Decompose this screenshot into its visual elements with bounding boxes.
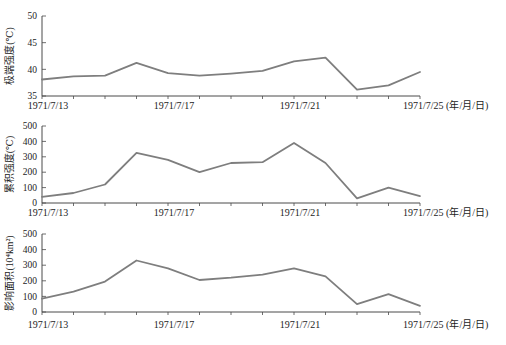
axes [42,234,420,312]
three-panel-line-chart-figure: 354045501971/7/131971/7/171971/7/211971/… [0,0,506,345]
x-tick-labels: 1971/7/131971/7/171971/7/211971/7/25 (年/… [28,99,489,112]
chart-cumulative-intensity: 01002003004005001971/7/131971/7/171971/7… [0,115,506,230]
y-ticks [42,16,46,96]
svg-text:100: 100 [23,292,38,302]
svg-text:1971/7/17: 1971/7/17 [154,207,195,218]
svg-text:400: 400 [23,245,38,255]
svg-text:1971/7/25 (年/月/日): 1971/7/25 (年/月/日) [403,206,488,219]
svg-text:45: 45 [28,38,38,48]
svg-text:1971/7/17: 1971/7/17 [154,319,195,330]
svg-text:100: 100 [23,183,38,193]
svg-text:1971/7/25 (年/月/日): 1971/7/25 (年/月/日) [403,318,488,331]
svg-text:1971/7/25 (年/月/日): 1971/7/25 (年/月/日) [403,99,488,112]
svg-text:200: 200 [23,276,38,286]
svg-text:300: 300 [23,260,38,270]
x-tick-labels: 1971/7/131971/7/171971/7/211971/7/25 (年/… [28,206,489,219]
svg-text:1971/7/21: 1971/7/21 [280,319,321,330]
y-tick-labels: 0100200300400500 [23,121,38,208]
axes [42,126,420,203]
y-axis-label: 极端强度(℃) [3,27,16,84]
svg-text:500: 500 [23,230,38,239]
svg-text:1971/7/13: 1971/7/13 [28,100,69,111]
y-ticks [42,234,46,312]
y-tick-labels: 0100200300400500 [23,230,38,317]
svg-text:50: 50 [28,11,38,21]
svg-text:1971/7/21: 1971/7/21 [280,100,321,111]
svg-text:400: 400 [23,137,38,147]
svg-text:1971/7/17: 1971/7/17 [154,100,195,111]
y-ticks [42,126,46,203]
svg-text:0: 0 [32,307,37,317]
x-tick-labels: 1971/7/131971/7/171971/7/211971/7/25 (年/… [28,318,489,331]
svg-text:1971/7/13: 1971/7/13 [28,207,69,218]
svg-text:1971/7/13: 1971/7/13 [28,319,69,330]
svg-text:500: 500 [23,121,38,131]
data-line [42,58,420,90]
axes [42,16,420,96]
svg-text:200: 200 [23,167,38,177]
svg-text:1971/7/21: 1971/7/21 [280,207,321,218]
y-axis-label: 累积强度(℃) [3,136,16,193]
svg-text:40: 40 [28,65,38,75]
data-line [42,143,420,199]
svg-text:300: 300 [23,152,38,162]
y-axis-label: 影响面积(10⁴km²) [3,235,16,310]
data-line [42,261,420,306]
y-tick-labels: 35404550 [28,11,38,101]
chart-extreme-intensity: 354045501971/7/131971/7/171971/7/211971/… [0,0,506,115]
chart-affected-area: 01002003004005001971/7/131971/7/171971/7… [0,230,506,345]
